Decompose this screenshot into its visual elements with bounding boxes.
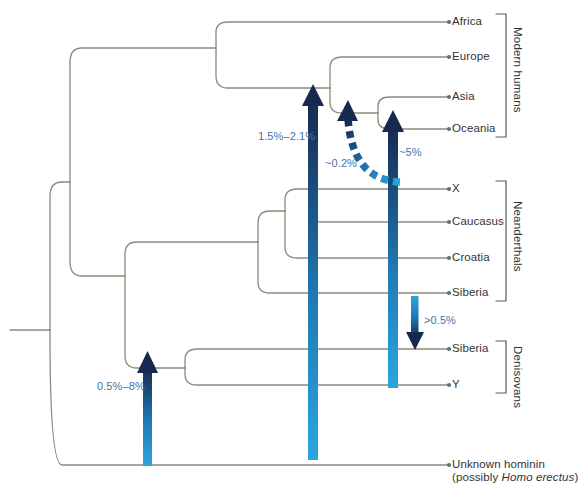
tip-label-unknown-hominin: Unknown hominin (possibly Homo erectus): [452, 458, 578, 484]
tip-label-europe: Europe: [452, 50, 490, 63]
group-label-modern-humans: Modern humans: [512, 27, 524, 113]
arrow-unknown-to-denisovan: [137, 351, 158, 466]
tip-label-asia: Asia: [452, 90, 475, 103]
unknown-hominin-suffix: ): [574, 471, 578, 483]
unknown-hominin-species: Homo erectus: [502, 471, 575, 483]
tree-branches: [10, 22, 448, 465]
group-label-denisovans: Denisovans: [512, 346, 524, 408]
percent-label-neanderthal-to-denisovan: >0.5%: [424, 314, 456, 326]
tip-label-neanderthal-croatia: Croatia: [452, 251, 490, 264]
tip-label-africa: Africa: [452, 15, 482, 28]
tip-label-denisovan-y: Y: [452, 378, 460, 391]
tip-label-neanderthal-caucasus: Caucasus: [452, 215, 504, 228]
percent-label-unknown-to-denisovan: 0.5%–8%: [97, 380, 145, 392]
tip-label-denisovan-siberia: Siberia: [452, 342, 489, 355]
tip-label-neanderthal-siberia: Siberia: [452, 286, 489, 299]
unknown-hominin-line2: (possibly Homo erectus): [452, 471, 578, 484]
bracket-modern-humans: [496, 14, 506, 137]
group-label-neanderthals: Neanderthals: [512, 201, 524, 272]
arrow-neanderthal-to-denisovan: [406, 296, 424, 350]
unknown-hominin-prefix: (possibly: [452, 471, 502, 483]
tip-label-oceania: Oceania: [452, 122, 496, 135]
tip-dots: [447, 20, 451, 467]
percent-label-neanderthal-to-eurasians: 1.5%–2.1%: [258, 130, 315, 142]
percent-label-denisovan-to-oceania: ~5%: [399, 146, 422, 158]
bracket-denisovans: [496, 341, 506, 393]
tip-label-neanderthal-x: X: [452, 182, 460, 195]
bracket-neanderthals: [496, 181, 506, 301]
percent-label-modern-to-neanderthal: ~0.2%: [325, 157, 357, 169]
unknown-hominin-line1: Unknown hominin: [452, 458, 545, 470]
group-brackets: [496, 14, 506, 393]
